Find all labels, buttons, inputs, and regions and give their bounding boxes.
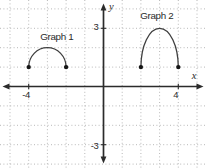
y-axis-arrow-up [101,4,107,11]
y-axis-arrow-down [101,157,107,164]
y-tick-label-neg3: -3 [91,140,99,151]
graph-2-endpoint-1 [139,65,143,69]
figure-canvas: y x 3 -3 -4 4 Graph 1 Graph 2 [0,0,206,168]
x-axis-label: x [191,70,197,81]
graph-1-endpoint-2 [64,65,68,69]
graph-1-endpoint-1 [27,65,31,69]
coordinate-plane: y x 3 -3 -4 4 Graph 1 Graph 2 [0,0,206,168]
x-tick-label-4: 4 [173,89,178,100]
labels: y x 3 -3 -4 4 Graph 1 Graph 2 [22,1,196,151]
axes [3,4,204,164]
x-axis-arrow-left [3,84,10,90]
graph-2-endpoint-2 [176,65,180,69]
graph-1-curve [29,48,66,67]
graph-2-label: Graph 2 [140,10,173,21]
x-tick-label-neg4: -4 [22,89,30,100]
y-axis-label: y [108,1,114,12]
graph-1-label: Graph 1 [40,31,73,42]
y-tick-label-3: 3 [94,21,99,32]
x-axis-arrow-right [197,84,204,90]
